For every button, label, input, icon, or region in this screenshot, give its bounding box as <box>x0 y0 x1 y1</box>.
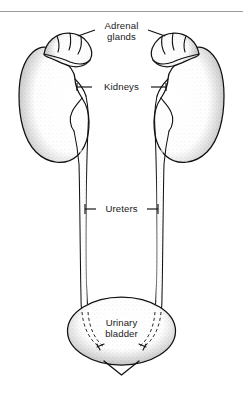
label-ureters: Ureters <box>105 203 137 214</box>
urinary-system-illustration: Adrenal glands Kidneys Ureters Urinary b… <box>0 0 243 395</box>
label-adrenal-glands-line2: glands <box>107 31 136 42</box>
label-kidneys: Kidneys <box>104 81 139 92</box>
urinary-system-figure: Adrenal glands Kidneys Ureters Urinary b… <box>0 0 243 395</box>
label-urinary-bladder-line1: Urinary <box>106 317 138 328</box>
diagram-labels: Adrenal glands Kidneys Ureters Urinary b… <box>104 20 139 339</box>
leader-adrenal-left <box>78 30 95 36</box>
label-adrenal-glands-line1: Adrenal <box>105 20 139 31</box>
label-urinary-bladder-line2: bladder <box>105 328 138 339</box>
leader-adrenal-right <box>148 30 165 36</box>
